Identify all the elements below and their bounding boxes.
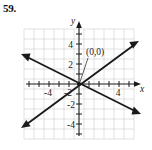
x-tick-label--4: -4 [44, 88, 52, 98]
y-tick-label--2: -2 [67, 100, 75, 110]
x-axis-label: x [139, 84, 145, 94]
y-tick-label-2: 2 [68, 60, 73, 70]
figure-container: 59. [0, 0, 152, 150]
y-tick-label--4: -4 [67, 120, 75, 130]
y-tick-label-4: 4 [68, 40, 73, 50]
origin-point-label: (0,0) [86, 47, 104, 58]
y-axis-label: y [70, 16, 76, 26]
x-tick-label--2: -2 [64, 88, 72, 98]
origin-point-marker [77, 82, 81, 86]
coordinate-graph: -4 -2 4 4 2 -2 -4 y x (0,0) [0, 0, 152, 150]
x-tick-label-4: 4 [116, 88, 121, 98]
